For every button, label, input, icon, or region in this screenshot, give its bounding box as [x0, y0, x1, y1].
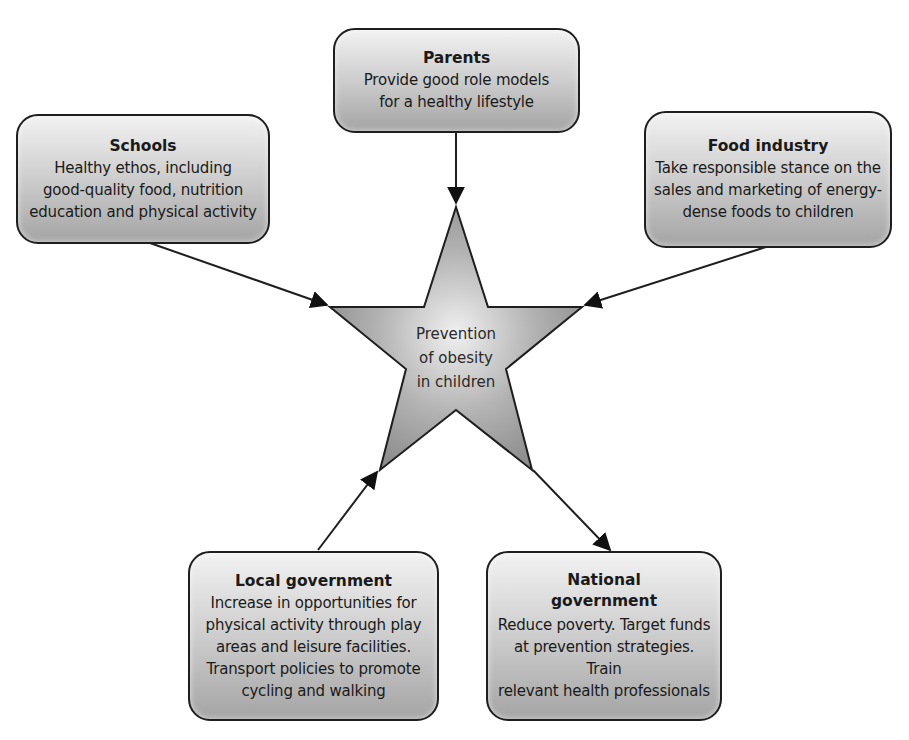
node-text-line: areas and leisure facilities.	[198, 636, 429, 658]
node-title: Local government	[198, 571, 429, 592]
node-title: National	[496, 570, 712, 591]
node-text-line: at prevention strategies. Train	[496, 636, 712, 680]
node-text-line: physical activity through play	[198, 614, 429, 636]
node-title: government	[496, 591, 712, 612]
node-text-line: good-quality food, nutrition	[26, 179, 260, 201]
node-text-line: cycling and walking	[198, 680, 429, 702]
node-text-line: Provide good role models	[343, 69, 570, 91]
node-text-line: education and physical activity	[26, 201, 260, 223]
node-text-line: Reduce poverty. Target funds	[496, 614, 712, 636]
node-schools: Schools Healthy ethos, including good-qu…	[16, 114, 270, 244]
node-local-government: Local government Increase in opportuniti…	[188, 551, 439, 721]
node-parents: Parents Provide good role models for a h…	[333, 28, 580, 133]
node-title: Food industry	[654, 136, 882, 157]
arrow-local-government-to-star	[318, 472, 377, 550]
center-label-line: Prevention	[396, 322, 516, 346]
node-text-line: for a healthy lifestyle	[343, 91, 570, 113]
node-national-government: National government Reduce poverty. Targ…	[486, 551, 722, 721]
node-text-line: dense foods to children	[654, 201, 882, 223]
center-label-line: of obesity	[396, 346, 516, 370]
node-text-line: Healthy ethos, including	[26, 157, 260, 179]
arrow-food-industry-to-star	[585, 247, 766, 305]
arrow-schools-to-star	[150, 243, 327, 305]
node-text-line: Transport policies to promote	[198, 658, 429, 680]
center-label-line: in children	[396, 370, 516, 394]
arrow-star-to-national-government	[533, 470, 610, 550]
node-food-industry: Food industry Take responsible stance on…	[644, 111, 892, 248]
node-text-line: sales and marketing of energy-	[654, 179, 882, 201]
center-label: Prevention of obesity in children	[396, 322, 516, 394]
node-text-line: Increase in opportunities for	[198, 592, 429, 614]
node-text-line: relevant health professionals	[496, 680, 712, 702]
node-title: Parents	[343, 48, 570, 69]
node-title: Schools	[26, 136, 260, 157]
node-text-line: Take responsible stance on the	[654, 157, 882, 179]
